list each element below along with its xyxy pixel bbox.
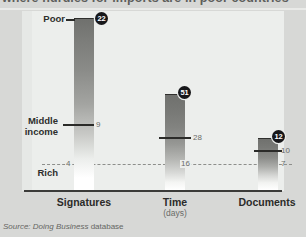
source-note: Source: Doing Business database [3,222,124,231]
signatures-poor-badge: 22 [95,12,108,25]
bar-documents-fill [258,138,278,190]
time-rich-value: 16 [180,160,191,168]
bar-signatures [74,18,94,190]
source-prefix: Source: [3,222,31,231]
bar-signatures-fill [74,18,94,190]
xlabel-time: Time [140,196,210,208]
headline-divider [0,8,306,10]
bar-documents [258,138,278,190]
chart-figure: where hurdles for imports are in poor co… [0,0,306,237]
xlabel-time-sublabel: (days) [140,208,210,218]
signatures-middle-tick [63,124,94,126]
time-poor-badge: 51 [178,86,191,99]
chart-headline: where hurdles for imports are in poor co… [2,0,289,5]
time-middle-tick [159,137,191,139]
label-middle-line1: Middle [28,115,58,126]
bar-signatures-top-edge [74,18,94,19]
label-middle-income: Middleincome [10,116,58,137]
label-rich: Rich [20,168,58,179]
time-middle-value: 28 [193,134,202,142]
signatures-rich-value: 4 [65,160,71,168]
xlabel-documents: Documents [228,196,306,208]
panel-left-shade [22,11,32,191]
poor-connector [66,19,75,21]
documents-rich-value: 7 [281,160,285,168]
source-suffix: database [91,222,124,231]
label-middle-line2: income [25,126,58,137]
label-poor: Poor [20,14,65,25]
documents-poor-badge: 12 [272,130,285,143]
bar-time [165,94,185,190]
bar-time-fill [165,94,185,190]
source-italic: Doing Business [33,222,89,231]
signatures-middle-value: 9 [96,121,100,129]
documents-middle-value: 10 [281,147,290,155]
x-axis-line [24,190,282,192]
documents-middle-tick [254,150,282,152]
xlabel-signatures: Signatures [44,196,124,208]
